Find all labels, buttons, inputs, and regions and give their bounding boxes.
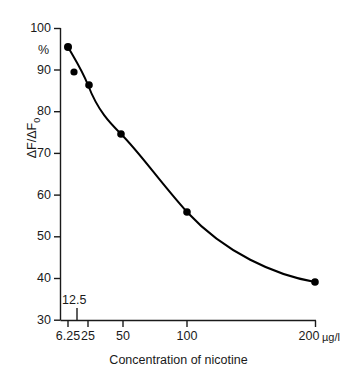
x-tick-label-25: 25: [73, 330, 103, 343]
x-tick-label-12-5: 12.5: [62, 294, 86, 307]
data-point: [117, 130, 125, 138]
data-point: [70, 68, 77, 75]
y-axis-title: ΔF/ΔF0: [26, 98, 42, 178]
x-axis-unit-label: µg/l: [322, 332, 340, 343]
y-tick-label-90: 90: [6, 64, 51, 77]
y-axis-title-text: ΔF/ΔF: [25, 123, 39, 158]
y-tick-label-60: 60: [6, 189, 51, 202]
y-axis-title-subscript: 0: [32, 118, 42, 123]
y-tick-label-100: 100: [6, 22, 51, 35]
data-point: [64, 43, 72, 51]
chart-figure: 100 90 80 70 60 50 40 30 % ΔF/ΔF0 12.5 6…: [0, 0, 357, 383]
y-tick-label-40: 40: [6, 272, 51, 285]
x-tick-label-200: 200: [294, 330, 324, 343]
x-tick-label-100: 100: [172, 330, 202, 343]
y-tick-label-50: 50: [6, 230, 51, 243]
data-point: [311, 278, 319, 286]
x-axis-title: Concentration of nicotine: [0, 354, 357, 367]
plot-background: [0, 0, 357, 383]
y-tick-label-30: 30: [6, 314, 51, 327]
chart-plot-area: [0, 0, 357, 383]
data-point: [183, 208, 191, 216]
y-axis-unit-percent: %: [38, 44, 49, 57]
data-point: [85, 81, 93, 89]
x-tick-label-50: 50: [108, 330, 138, 343]
